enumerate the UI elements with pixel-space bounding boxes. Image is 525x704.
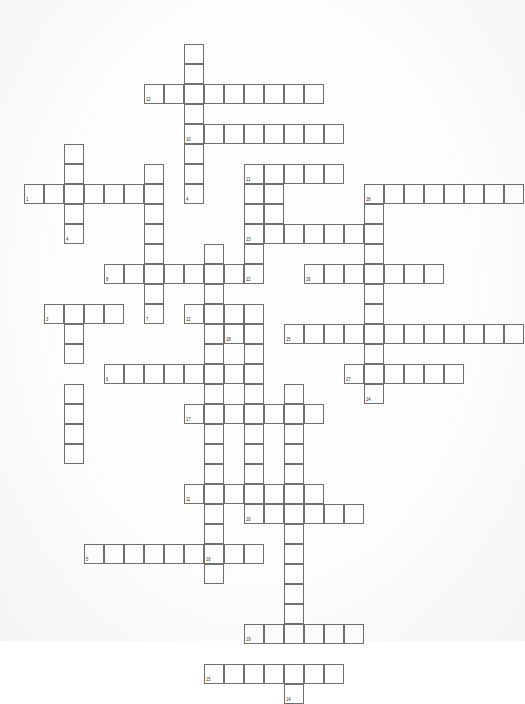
crossword-cell-numbered[interactable]: 4 — [184, 184, 204, 204]
crossword-cell-numbered[interactable]: 8 — [104, 264, 124, 284]
crossword-cell[interactable] — [204, 484, 224, 504]
crossword-cell[interactable] — [284, 544, 304, 564]
crossword-cell[interactable] — [264, 484, 284, 504]
crossword-cell[interactable] — [304, 504, 324, 524]
crossword-cell[interactable] — [104, 544, 124, 564]
crossword-cell[interactable] — [144, 164, 164, 184]
crossword-cell[interactable] — [424, 324, 444, 344]
crossword-cell[interactable] — [244, 444, 264, 464]
crossword-cell[interactable] — [164, 84, 184, 104]
crossword-cell[interactable] — [64, 204, 84, 224]
crossword-cell[interactable] — [324, 664, 344, 684]
crossword-cell[interactable] — [364, 344, 384, 364]
crossword-cell[interactable] — [344, 224, 364, 244]
crossword-cell[interactable] — [184, 544, 204, 564]
crossword-cell[interactable] — [324, 124, 344, 144]
crossword-cell[interactable] — [244, 384, 264, 404]
crossword-cell[interactable] — [284, 164, 304, 184]
crossword-cell[interactable] — [244, 124, 264, 144]
crossword-cell[interactable] — [204, 444, 224, 464]
crossword-cell[interactable] — [324, 164, 344, 184]
crossword-cell-numbered[interactable]: 21 — [244, 164, 264, 184]
crossword-cell[interactable] — [284, 404, 304, 424]
crossword-cell[interactable] — [204, 564, 224, 584]
crossword-cell-numbered[interactable]: 5 — [84, 544, 104, 564]
crossword-cell[interactable] — [64, 164, 84, 184]
crossword-cell-numbered[interactable]: 6 — [104, 364, 124, 384]
crossword-cell[interactable] — [284, 664, 304, 684]
crossword-cell[interactable] — [364, 244, 384, 264]
crossword-cell[interactable] — [264, 124, 284, 144]
crossword-cell[interactable] — [124, 264, 144, 284]
crossword-cell[interactable] — [424, 184, 444, 204]
crossword-cell[interactable] — [484, 184, 504, 204]
crossword-cell[interactable] — [144, 184, 164, 204]
crossword-cell[interactable] — [204, 424, 224, 444]
crossword-cell[interactable] — [244, 464, 264, 484]
crossword-cell-numbered[interactable]: 15 — [204, 664, 224, 684]
crossword-cell[interactable] — [184, 264, 204, 284]
crossword-cell[interactable] — [64, 304, 84, 324]
crossword-cell-numbered[interactable]: 14 — [284, 684, 304, 704]
crossword-cell[interactable] — [224, 364, 244, 384]
crossword-cell[interactable] — [324, 504, 344, 524]
crossword-cell[interactable] — [244, 404, 264, 424]
crossword-cell[interactable] — [444, 324, 464, 344]
crossword-cell[interactable] — [64, 184, 84, 204]
crossword-cell-numbered[interactable]: 4 — [64, 224, 84, 244]
crossword-cell[interactable] — [404, 184, 424, 204]
crossword-cell[interactable] — [224, 404, 244, 424]
crossword-cell[interactable] — [284, 124, 304, 144]
crossword-cell-numbered[interactable]: 18 — [224, 324, 244, 344]
crossword-cell[interactable] — [184, 364, 204, 384]
crossword-cell[interactable] — [284, 564, 304, 584]
crossword-cell[interactable] — [124, 364, 144, 384]
crossword-cell[interactable] — [204, 84, 224, 104]
crossword-cell[interactable] — [144, 204, 164, 224]
crossword-cell-numbered[interactable]: 17 — [184, 404, 204, 424]
crossword-cell[interactable] — [144, 244, 164, 264]
crossword-cell[interactable] — [364, 364, 384, 384]
crossword-cell[interactable] — [204, 264, 224, 284]
crossword-cell[interactable] — [404, 324, 424, 344]
crossword-cell[interactable] — [504, 324, 524, 344]
crossword-cell[interactable] — [264, 164, 284, 184]
crossword-cell[interactable] — [304, 124, 324, 144]
crossword-cell[interactable] — [304, 324, 324, 344]
crossword-cell[interactable] — [204, 504, 224, 524]
crossword-cell-numbered[interactable]: 24 — [364, 384, 384, 404]
crossword-cell-numbered[interactable]: 10 — [184, 124, 204, 144]
crossword-cell-numbered[interactable]: 20 — [244, 504, 264, 524]
crossword-cell[interactable] — [264, 184, 284, 204]
crossword-cell-numbered[interactable]: 1 — [24, 184, 44, 204]
crossword-cell[interactable] — [324, 224, 344, 244]
crossword-cell[interactable] — [264, 664, 284, 684]
crossword-cell[interactable] — [244, 204, 264, 224]
crossword-cell[interactable] — [124, 184, 144, 204]
crossword-cell[interactable] — [264, 624, 284, 644]
crossword-cell[interactable] — [184, 144, 204, 164]
crossword-cell-numbered[interactable]: 11 — [184, 484, 204, 504]
crossword-cell-numbered[interactable]: 7 — [144, 304, 164, 324]
crossword-cell[interactable] — [244, 324, 264, 344]
crossword-cell[interactable] — [284, 84, 304, 104]
crossword-cell-numbered[interactable]: 25 — [284, 324, 304, 344]
crossword-cell[interactable] — [424, 364, 444, 384]
crossword-cell[interactable] — [224, 544, 244, 564]
crossword-cell[interactable] — [244, 664, 264, 684]
crossword-cell[interactable] — [144, 544, 164, 564]
crossword-cell[interactable] — [264, 224, 284, 244]
crossword-cell[interactable] — [344, 264, 364, 284]
crossword-cell[interactable] — [364, 224, 384, 244]
crossword-cell[interactable] — [64, 324, 84, 344]
crossword-cell[interactable] — [224, 484, 244, 504]
crossword-cell[interactable] — [224, 304, 244, 324]
crossword-cell[interactable] — [364, 204, 384, 224]
crossword-cell[interactable] — [224, 664, 244, 684]
crossword-cell[interactable] — [244, 364, 264, 384]
crossword-cell[interactable] — [244, 244, 264, 264]
crossword-cell[interactable] — [244, 184, 264, 204]
crossword-cell[interactable] — [264, 84, 284, 104]
crossword-cell[interactable] — [384, 184, 404, 204]
